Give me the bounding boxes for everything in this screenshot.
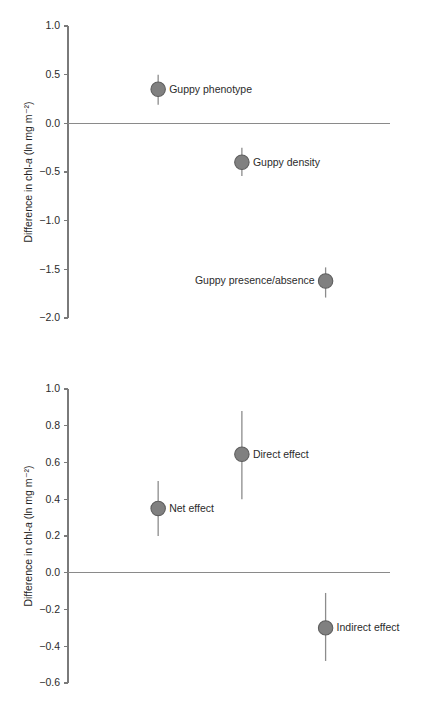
- y-axis-tick-label: 0.0: [45, 117, 60, 129]
- data-point-group: Guppy phenotype: [151, 75, 252, 105]
- y-axis-title-post: (ln mg m⁻²): [22, 101, 34, 158]
- y-axis-title: Difference in chl-a (ln mg m⁻²): [22, 101, 34, 242]
- data-point-marker[interactable]: [318, 274, 332, 288]
- y-axis-tick-label: −2.0: [39, 311, 60, 323]
- data-point-label: Guppy density: [253, 156, 321, 168]
- y-axis-tick-label: 1.0: [45, 382, 60, 394]
- scatter-plot-bottom: 1.00.80.60.40.20.0−0.2−0.4−0.6Difference…: [0, 350, 430, 707]
- data-point-group: Direct effect: [235, 411, 309, 499]
- data-point-group: Net effect: [151, 481, 214, 536]
- y-axis-tick-label: −1.0: [39, 214, 60, 226]
- data-point-marker[interactable]: [235, 447, 249, 461]
- y-axis-tick-label: 0.2: [45, 529, 60, 541]
- data-point-marker[interactable]: [318, 621, 332, 635]
- y-axis-title: Difference in chl-a (ln mg m⁻²): [22, 465, 34, 606]
- y-axis-title-post: (ln mg m⁻²): [22, 465, 34, 522]
- data-point-label: Indirect effect: [337, 621, 400, 633]
- data-point-group: Guppy presence/absence: [195, 267, 333, 297]
- data-point-label: Guppy phenotype: [169, 83, 252, 95]
- data-point-label: Direct effect: [253, 448, 309, 460]
- y-axis-title-pre: Difference in chl-: [22, 527, 34, 606]
- data-point-group: Guppy density: [235, 148, 321, 176]
- y-axis-tick-label: 0.0: [45, 566, 60, 578]
- data-point-marker[interactable]: [235, 155, 249, 169]
- scatter-plot-top: 1.00.50.0−0.5−1.0−1.5−2.0Difference in c…: [0, 0, 430, 350]
- y-axis-tick-label: 0.4: [45, 493, 60, 505]
- data-point-marker[interactable]: [151, 82, 165, 96]
- y-axis-tick-label: −0.6: [39, 676, 60, 688]
- chart-panel-bottom: 1.00.80.60.40.20.0−0.2−0.4−0.6Difference…: [0, 350, 430, 707]
- chart-panel-top: 1.00.50.0−0.5−1.0−1.5−2.0Difference in c…: [0, 0, 430, 350]
- figure-root: 1.00.50.0−0.5−1.0−1.5−2.0Difference in c…: [0, 0, 430, 707]
- data-point-group: Indirect effect: [318, 593, 399, 661]
- y-axis-tick-label: 0.6: [45, 456, 60, 468]
- y-axis-tick-label: −0.4: [39, 640, 60, 652]
- data-point-label: Net effect: [169, 502, 214, 514]
- y-axis-tick-label: 1.0: [45, 19, 60, 31]
- data-point-marker[interactable]: [151, 501, 165, 515]
- y-axis-tick-label: 0.8: [45, 419, 60, 431]
- y-axis-tick-label: −0.2: [39, 603, 60, 615]
- y-axis-tick-label: 0.5: [45, 68, 60, 80]
- y-axis-tick-label: −1.5: [39, 263, 60, 275]
- data-point-label: Guppy presence/absence: [195, 274, 315, 286]
- y-axis-tick-label: −0.5: [39, 165, 60, 177]
- y-axis-title-pre: Difference in chl-: [22, 163, 34, 242]
